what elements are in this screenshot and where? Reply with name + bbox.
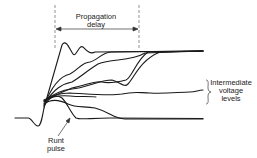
runt-pulse-arrow (58, 118, 70, 136)
metastability-waveform-diagram: Propagation delay Intermediate voltage l… (0, 0, 257, 158)
waveform-high-4 (44, 51, 203, 102)
intermediate-label-3: levels (221, 94, 240, 103)
waveform-runt-pulse (44, 96, 203, 119)
runt-pulse-label-2: pulse (47, 144, 65, 153)
propagation-delay-label-2: delay (87, 20, 105, 29)
input-baseline (15, 108, 44, 126)
waveform-low-1 (44, 100, 203, 119)
waveform-overshoot (44, 43, 203, 108)
waveform-curves (15, 43, 203, 126)
waveform-intermediate (44, 90, 203, 100)
